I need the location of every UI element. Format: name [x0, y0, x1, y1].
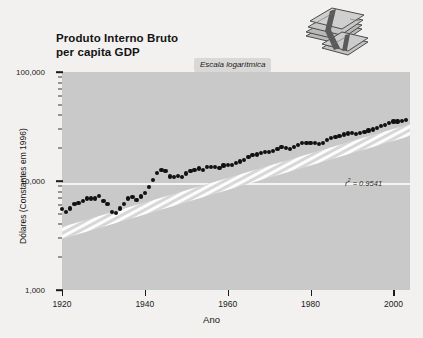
data-point — [139, 194, 143, 198]
y-tick-minor — [58, 185, 62, 186]
y-tick-minor — [58, 76, 62, 77]
data-point — [163, 169, 167, 173]
x-tick-label: 1920 — [53, 299, 72, 309]
data-point — [76, 201, 80, 205]
y-tick-minor — [58, 82, 62, 83]
chart-title-line1: Produto Interno Bruto — [56, 31, 178, 45]
data-point — [147, 185, 151, 189]
y-tick-label: 100,000 — [16, 68, 45, 77]
y-tick-minor — [58, 148, 62, 149]
y-tick-minor — [58, 96, 62, 97]
x-tick-mark — [145, 290, 146, 296]
chart-title-line2: per capita GDP — [56, 45, 178, 59]
y-tick-mark — [56, 71, 63, 73]
data-point — [114, 211, 118, 215]
data-point — [68, 206, 72, 210]
data-point — [404, 118, 408, 122]
r-squared-annotation: r2 = 0.9541 — [345, 177, 382, 188]
x-tick-label: 2000 — [384, 299, 403, 309]
chart-figure: Produto Interno Bruto per capita GDP Esc… — [0, 0, 423, 338]
x-tick-mark — [393, 290, 394, 296]
x-tick-label: 1980 — [301, 299, 320, 309]
y-tick-minor — [58, 88, 62, 89]
data-point — [122, 202, 126, 206]
data-point — [118, 206, 122, 210]
page-title: Produto Interno Bruto per capita GDP — [56, 31, 178, 59]
y-tick-label: 1,000 — [25, 286, 45, 295]
x-tick-mark — [228, 290, 229, 296]
r2-value: = 0.9541 — [351, 179, 383, 188]
y-tick-minor — [58, 197, 62, 198]
y-tick-minor — [58, 213, 62, 214]
data-point — [64, 210, 68, 214]
y-axis-ticks: 1,00010,000100,000 — [0, 0, 57, 338]
data-point — [134, 198, 138, 202]
x-tick-mark — [62, 290, 63, 296]
y-tick-minor — [58, 128, 62, 129]
data-point — [151, 178, 155, 182]
y-tick-minor — [58, 104, 62, 105]
y-tick-minor — [58, 115, 62, 116]
x-axis-title: Ano — [0, 314, 423, 325]
x-tick-label: 1960 — [218, 299, 237, 309]
data-point — [201, 168, 205, 172]
data-point — [143, 191, 147, 195]
y-tick-mark — [56, 180, 63, 182]
money-stack-icon — [300, 2, 372, 64]
log-scale-badge: Escala logarítmica — [194, 58, 271, 72]
y-tick-minor — [58, 205, 62, 206]
y-tick-minor — [58, 191, 62, 192]
y-axis-title: Dólares (Constantes em 1996) — [18, 111, 28, 261]
data-point — [97, 194, 101, 198]
y-tick-minor — [58, 257, 62, 258]
y-tick-minor — [58, 224, 62, 225]
y-tick-minor — [58, 237, 62, 238]
data-point — [105, 202, 109, 206]
data-point — [180, 175, 184, 179]
x-tick-label: 1940 — [135, 299, 154, 309]
x-tick-mark — [311, 290, 312, 296]
plot-area: r2 = 0.9541 — [62, 72, 410, 290]
